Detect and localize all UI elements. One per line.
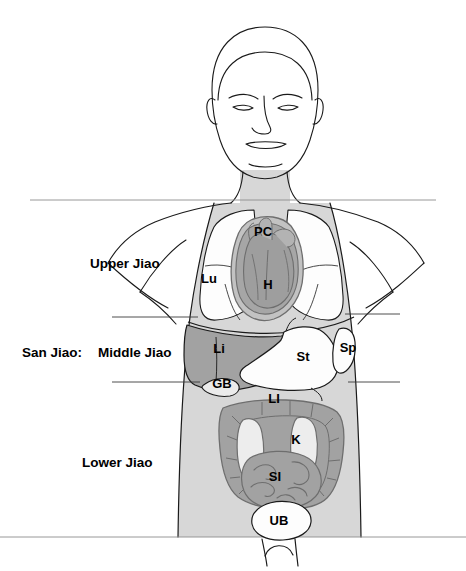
right-arm-inner	[350, 242, 393, 292]
organ-label-liver: Li	[213, 341, 225, 356]
anatomy-figure: San Jiao: Upper Jiao Middle Jiao Lower J…	[0, 0, 466, 571]
right-leg-top	[295, 539, 298, 566]
jiao-labels-group: San Jiao: Upper Jiao Middle Jiao Lower J…	[22, 256, 172, 470]
san-jiao-prefix-label: San Jiao:	[22, 345, 82, 360]
organ-label-urinary-bladder: UB	[270, 513, 289, 528]
right-arm-elbow	[366, 263, 424, 308]
organ-label-spleen: Sp	[340, 340, 357, 355]
mouth	[246, 142, 286, 149]
left-forearm	[140, 292, 176, 324]
organ-label-kidney: K	[291, 432, 301, 447]
left-eye	[233, 105, 253, 110]
nose	[252, 96, 271, 134]
organ-label-small-intestine: SI	[269, 469, 281, 484]
organ-label-stomach: St	[297, 349, 311, 364]
right-eye	[278, 105, 298, 110]
right-eyebrow	[273, 94, 302, 99]
organ-label-gallbladder: GB	[212, 376, 232, 391]
organ-label-pericardium: PC	[254, 224, 273, 239]
jiao-label-middle: Middle Jiao	[98, 345, 172, 360]
organ-label-heart: H	[263, 277, 272, 292]
jiao-label-lower: Lower Jiao	[82, 455, 153, 470]
groin-arc	[265, 546, 293, 556]
hairline	[218, 52, 312, 100]
left-eyebrow	[229, 94, 258, 99]
head-outline	[212, 27, 318, 179]
small-intestine-mass	[242, 451, 322, 509]
anatomy-diagram-svg: San Jiao: Upper Jiao Middle Jiao Lower J…	[0, 0, 466, 571]
chin-line	[249, 164, 282, 167]
right-forearm	[358, 292, 393, 324]
jiao-label-upper: Upper Jiao	[90, 256, 160, 271]
small-intestine-group	[242, 451, 322, 509]
organ-label-large-intestine: LI	[268, 391, 280, 406]
organ-label-lung: Lu	[201, 271, 217, 286]
